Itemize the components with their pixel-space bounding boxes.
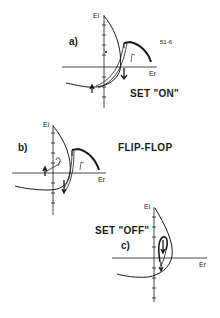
figure-code: 51-6 xyxy=(160,39,172,45)
panel-a-arrow-down xyxy=(121,68,127,79)
panel-b-outer-curve xyxy=(15,126,70,190)
diagram-canvas xyxy=(0,0,220,318)
panel-c-y-axis-label: Ei xyxy=(144,203,150,210)
panel-b-label: b) xyxy=(18,142,27,153)
panel-b-branch-arc xyxy=(72,149,99,170)
panel-a-arrow-up xyxy=(90,85,94,93)
panel-c-arrow-down-1 xyxy=(161,240,165,253)
panel-a-label: a) xyxy=(69,36,78,47)
panel-c xyxy=(112,207,207,302)
panel-b-title: FLIP-FLOP xyxy=(118,142,172,153)
panel-c-x-axis-label: Er xyxy=(199,261,206,268)
panel-b-x-axis-label: Er xyxy=(98,176,105,183)
panel-b-y-axis-label: Ei xyxy=(43,121,49,128)
panel-b xyxy=(12,125,106,215)
panel-a-branch-arc xyxy=(124,42,151,62)
panel-a-outer-curve xyxy=(66,16,121,87)
panel-a-y-axis-label: Ei xyxy=(93,12,99,19)
panel-c-label: c) xyxy=(121,240,130,251)
panel-b-inner-curve xyxy=(64,151,72,188)
panel-a-title: SET "ON" xyxy=(130,88,179,99)
panel-a-x-axis-label: Er xyxy=(149,70,156,77)
panel-c-title: SET "OFF" xyxy=(95,225,149,236)
